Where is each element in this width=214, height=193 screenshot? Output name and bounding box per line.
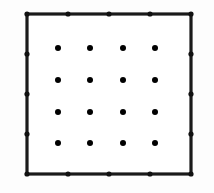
boundary-node-top-0 (24, 11, 29, 16)
lattice-square-figure (0, 0, 214, 193)
boundary-node-left-3 (24, 131, 29, 136)
interior-dot-3 (152, 45, 158, 51)
interior-dot-9 (87, 109, 93, 115)
boundary-node-right-1 (188, 51, 193, 56)
interior-dot-6 (120, 77, 126, 83)
boundary-node-bottom-2 (106, 171, 111, 176)
boundary-node-right-4 (188, 171, 193, 176)
boundary-node-top-3 (147, 11, 152, 16)
figure-root: Square lattice with boundary nodes and i… (0, 0, 214, 193)
interior-dot-10 (120, 109, 126, 115)
boundary-node-left-2 (24, 91, 29, 96)
boundary-node-top-1 (65, 11, 70, 16)
boundary-node-bottom-3 (147, 171, 152, 176)
boundary-node-bottom-1 (65, 171, 70, 176)
interior-dot-5 (87, 77, 93, 83)
boundary-node-bottom-0 (24, 171, 29, 176)
square-interior-panel (27, 14, 191, 174)
interior-dot-4 (55, 77, 61, 83)
interior-dot-0 (55, 45, 61, 51)
boundary-node-right-3 (188, 131, 193, 136)
boundary-node-top-4 (188, 11, 193, 16)
interior-dot-12 (55, 140, 61, 146)
interior-dot-2 (120, 45, 126, 51)
boundary-node-top-2 (106, 11, 111, 16)
boundary-node-left-1 (24, 51, 29, 56)
interior-dot-1 (87, 45, 93, 51)
interior-dot-14 (120, 140, 126, 146)
interior-dot-15 (152, 140, 158, 146)
boundary-node-right-2 (188, 91, 193, 96)
interior-dot-13 (87, 140, 93, 146)
interior-dot-11 (152, 109, 158, 115)
interior-dot-8 (55, 109, 61, 115)
interior-dot-7 (152, 77, 158, 83)
